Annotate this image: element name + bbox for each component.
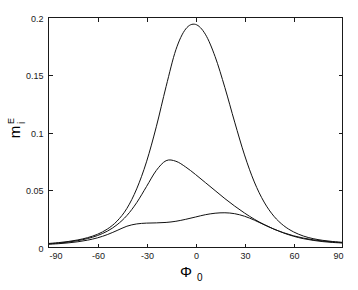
y-tick-label: 0.1: [31, 129, 44, 139]
x-axis-title-main: Φ: [180, 263, 192, 280]
y-axis-title-superscript: E: [6, 118, 16, 124]
y-axis-title-subscript: i: [16, 122, 27, 124]
x-tick-label: -90: [50, 251, 63, 261]
x-tick-label: 60: [289, 251, 299, 261]
y-tick-label: 0.15: [26, 71, 44, 81]
x-axis-title-subscript: 0: [197, 272, 203, 283]
y-tick-label: 0: [38, 244, 43, 254]
x-tick-label: 30: [240, 251, 250, 261]
y-axis-title-main: m: [6, 126, 23, 139]
x-tick-label: 90: [333, 251, 343, 261]
y-tick-label: 0.2: [31, 14, 44, 24]
chart-background: [0, 0, 358, 290]
y-tick-label: 0.05: [26, 186, 44, 196]
x-tick-label: -30: [141, 251, 154, 261]
x-axis-tick-labels: -90-60-300306090: [50, 251, 344, 261]
x-tick-label: -60: [92, 251, 105, 261]
figure-container: -90-60-300306090 00.050.10.150.2 Φ 0 m i…: [0, 0, 358, 290]
x-tick-label: 0: [194, 251, 199, 261]
line-chart: -90-60-300306090 00.050.10.150.2 Φ 0 m i…: [0, 0, 358, 290]
